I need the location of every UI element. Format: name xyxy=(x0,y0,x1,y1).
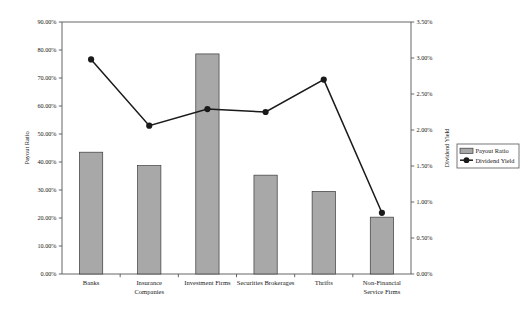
left-axis-tick-label: 30.00% xyxy=(37,186,56,193)
left-axis-tick-label: 40.00% xyxy=(37,158,56,165)
right-axis-tick-label: 0.00% xyxy=(417,270,433,277)
right-axis-title: Dividend Yield xyxy=(443,128,450,168)
right-axis-tick-label: 1.00% xyxy=(417,198,433,205)
dividend-yield-marker-thrifts xyxy=(321,77,327,83)
right-axis-tick-label: 2.00% xyxy=(417,126,433,133)
dual-axis-chart: 0.00%10.00%20.00%30.00%40.00%50.00%60.00… xyxy=(0,0,523,319)
right-axis-tick-label: 3.00% xyxy=(417,54,433,61)
left-axis-tick-label: 80.00% xyxy=(37,46,56,53)
chart-legend: Payout RatioDividend Yield xyxy=(457,144,519,168)
category-label-non-financial-service-firms: Non-Financial xyxy=(363,279,401,286)
bar-insurance-companies xyxy=(138,166,161,274)
right-axis-tick-label: 0.50% xyxy=(417,234,433,241)
bar-investment-firms xyxy=(196,54,219,274)
dividend-yield-marker-securities-brokerages xyxy=(262,109,268,115)
dividend-yield-marker-insurance-companies xyxy=(146,123,152,129)
category-label-investment-firms: Investment Firms xyxy=(184,279,231,286)
legend-label-dividend-yield: Dividend Yield xyxy=(476,157,516,164)
right-axis-tick-label: 3.50% xyxy=(417,18,433,25)
category-label-insurance-companies: Companies xyxy=(134,288,164,295)
left-axis-tick-label: 50.00% xyxy=(37,130,56,137)
category-label-insurance-companies: Insurance xyxy=(136,279,162,286)
legend-label-payout-ratio: Payout Ratio xyxy=(476,147,509,154)
left-axis-tick-label: 20.00% xyxy=(37,214,56,221)
dividend-yield-marker-non-financial-service-firms xyxy=(379,210,385,216)
bar-thrifts xyxy=(312,191,335,274)
right-axis-tick-label: 1.50% xyxy=(417,162,433,169)
category-label-securities-brokerages: Securities Brokerages xyxy=(237,279,295,286)
dividend-yield-marker-banks xyxy=(88,56,94,62)
category-label-banks: Banks xyxy=(83,279,100,286)
dividend-yield-marker-investment-firms xyxy=(204,106,210,112)
left-axis-title: Payout Ratio xyxy=(23,131,30,164)
bar-securities-brokerages xyxy=(254,175,277,274)
left-axis-tick-label: 10.00% xyxy=(37,242,56,249)
bar-banks xyxy=(79,152,102,274)
left-axis-tick-label: 60.00% xyxy=(37,102,56,109)
left-axis-tick-label: 90.00% xyxy=(37,18,56,25)
category-label-thrifts: Thrifts xyxy=(315,279,333,286)
legend-swatch-payout-ratio xyxy=(460,148,473,153)
category-label-non-financial-service-firms: Service Firms xyxy=(364,288,401,295)
legend-marker-dividend-yield xyxy=(464,157,470,163)
left-axis-tick-label: 70.00% xyxy=(37,74,56,81)
right-axis-tick-label: 2.50% xyxy=(417,90,433,97)
left-axis-tick-label: 0.00% xyxy=(41,270,57,277)
bar-non-financial-service-firms xyxy=(370,217,393,274)
chart-container: 0.00%10.00%20.00%30.00%40.00%50.00%60.00… xyxy=(0,0,523,319)
